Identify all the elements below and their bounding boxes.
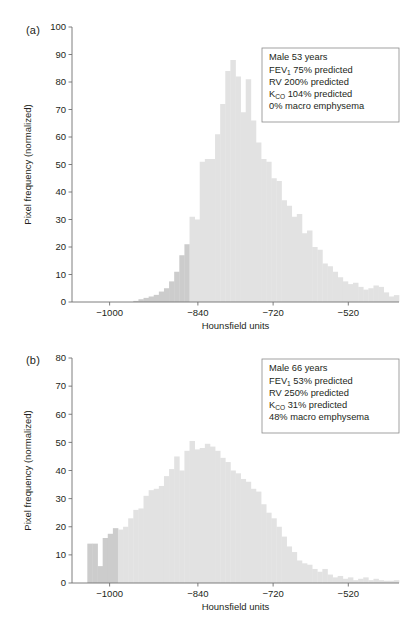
histogram-bar: [358, 287, 363, 302]
x-tick-label: −1000: [96, 588, 123, 599]
annotation-text: Male 53 years: [269, 52, 328, 62]
histogram-bar: [312, 247, 317, 302]
histogram-bar: [205, 159, 210, 302]
y-tick-label: 80: [55, 76, 66, 87]
histogram-bar: [333, 577, 338, 583]
x-tick-label: −840: [187, 588, 208, 599]
panel-b: (b) 01020304050607080−1000−840−720−520Ho…: [0, 330, 412, 637]
histogram-bar: [246, 79, 251, 302]
histogram-bar: [317, 250, 322, 302]
histogram-bar: [200, 162, 205, 302]
annotation-text: 53% predicted: [291, 376, 353, 386]
annotation-text: RV 250% predicted: [269, 388, 349, 398]
histogram-bar: [307, 231, 312, 303]
histogram-bar: [128, 518, 133, 583]
histogram-bar: [297, 214, 302, 302]
histogram-bar: [363, 577, 368, 583]
histogram-bar: [179, 471, 184, 584]
histogram-bar: [159, 292, 164, 302]
histogram-bar: [368, 288, 373, 302]
histogram-bar: [215, 451, 220, 583]
histogram-bar: [276, 181, 281, 302]
histogram-bar: [103, 538, 108, 583]
histogram-bar: [256, 492, 261, 583]
histogram-bar: [220, 458, 225, 583]
x-tick-label: −840: [187, 307, 208, 318]
y-tick-label: 10: [55, 269, 66, 280]
histogram-bar: [394, 295, 399, 302]
x-axis-title: Hounsfield units: [202, 601, 270, 612]
histogram-bar: [215, 134, 220, 302]
histogram-panel-a: 0102030405060708090100−1000−840−720−520H…: [0, 0, 412, 330]
histogram-bar: [144, 298, 149, 302]
annotation-line: Male 53 years: [269, 52, 328, 62]
histogram-bar: [164, 288, 169, 302]
histogram-bar: [169, 469, 174, 583]
histogram-bar: [261, 159, 266, 302]
histogram-bar: [138, 508, 143, 583]
histogram-bar: [307, 565, 312, 583]
annotation-line: 48% macro emphysema: [269, 412, 370, 422]
histogram-bar: [287, 206, 292, 302]
histogram-bar: [287, 546, 292, 583]
histogram-bar: [343, 281, 348, 302]
annotation-line: FEV1 75% predicted: [269, 65, 353, 76]
histogram-bar: [327, 266, 332, 302]
y-tick-label: 10: [55, 549, 66, 560]
histogram-bar: [190, 217, 195, 302]
annotation-subscript: CO: [275, 93, 285, 100]
x-tick-label: −1000: [96, 307, 123, 318]
histogram-bar: [302, 563, 307, 583]
histogram-bar: [184, 451, 189, 583]
histogram-bar: [241, 479, 246, 583]
histogram-bar: [174, 456, 179, 583]
histogram-bar: [184, 244, 189, 302]
histogram-bar: [98, 566, 103, 583]
histogram-bar: [149, 490, 154, 583]
histogram-bar: [322, 569, 327, 583]
annotation-subscript: CO: [275, 404, 285, 411]
histogram-bar: [281, 200, 286, 302]
histogram-bar: [174, 272, 179, 302]
histogram-bar: [276, 527, 281, 583]
annotation-line: RV 200% predicted: [269, 77, 349, 87]
histogram-bar: [302, 233, 307, 302]
annotation-text: 0% macro emphysema: [269, 101, 365, 111]
annotation-line: Male 66 years: [269, 363, 328, 373]
histogram-bar: [179, 255, 184, 302]
histogram-bar: [113, 528, 118, 583]
histogram-bar: [327, 575, 332, 583]
histogram-bar: [317, 572, 322, 583]
y-tick-label: 60: [55, 409, 66, 420]
y-tick-label: 70: [55, 380, 66, 391]
histogram-bar: [230, 471, 235, 584]
histogram-bar: [220, 104, 225, 302]
panel-a: (a) 0102030405060708090100−1000−840−720−…: [0, 0, 412, 330]
histogram-bar: [169, 281, 174, 302]
histogram-bar: [154, 489, 159, 583]
histogram-bar: [210, 447, 215, 583]
histogram-bar: [200, 448, 205, 583]
annotation-text: 48% macro emphysema: [269, 412, 370, 422]
annotation-text: RV 200% predicted: [269, 77, 349, 87]
y-tick-label: 90: [55, 49, 66, 60]
histogram-bar: [149, 297, 154, 303]
y-tick-label: 20: [55, 521, 66, 532]
annotation-text: 31% predicted: [285, 400, 347, 410]
histogram-bar: [251, 121, 256, 303]
y-tick-label: 50: [55, 159, 66, 170]
histogram-bar: [281, 537, 286, 583]
histogram-bar: [271, 518, 276, 583]
histogram-bar: [266, 513, 271, 583]
annotation-line: FEV1 53% predicted: [269, 376, 353, 387]
y-tick-label: 20: [55, 241, 66, 252]
x-tick-label: −720: [262, 588, 283, 599]
histogram-bar: [154, 295, 159, 302]
histogram-bar: [241, 112, 246, 302]
histogram-bar: [195, 220, 200, 303]
histogram-bar: [225, 71, 230, 302]
histogram-bar: [251, 489, 256, 583]
y-tick-label: 0: [61, 296, 66, 307]
panel-b-label: (b): [26, 354, 40, 366]
histogram-bar: [108, 534, 113, 583]
